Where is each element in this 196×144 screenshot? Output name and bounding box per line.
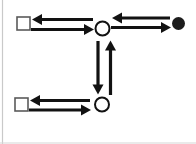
arrow-top-circle-to-bottom-circle-head (93, 85, 104, 95)
square-top-left-node (17, 17, 30, 30)
arrow-top-center-to-square-left-head (32, 14, 42, 25)
diagram-panel (0, 0, 196, 144)
arrow-bottom-center-to-square-head (30, 95, 40, 106)
arrow-top-center-to-filled-dot-head (161, 22, 171, 33)
circle-top-center-node (96, 22, 110, 36)
arrow-filled-dot-to-top-center-head (112, 13, 122, 24)
arrow-bottom-circle-to-top-circle-head (105, 41, 116, 51)
filled-dot-top-right-node (172, 17, 185, 30)
circle-bottom-center-node (95, 98, 109, 112)
square-bottom-left-node (15, 98, 28, 111)
arrow-square-left-to-top-center-head (84, 24, 94, 35)
state-transition-diagram (0, 0, 196, 144)
arrow-square-to-bottom-center-head (81, 105, 91, 116)
